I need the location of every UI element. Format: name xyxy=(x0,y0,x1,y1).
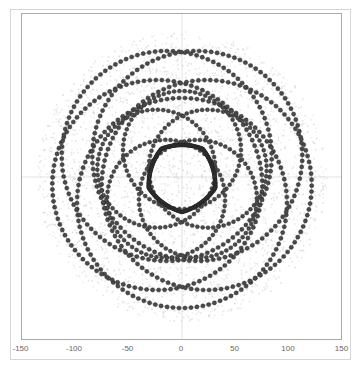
x-tick-label: 50 xyxy=(230,344,239,353)
x-tick-label: -100 xyxy=(66,344,82,353)
scatter-plot xyxy=(22,14,342,340)
halo-points xyxy=(37,31,328,322)
x-tick-label: 150 xyxy=(335,344,348,353)
x-tick-label: 100 xyxy=(281,344,294,353)
x-tick-label: -50 xyxy=(122,344,134,353)
plot-area xyxy=(21,13,342,340)
x-tick-label: -150 xyxy=(12,344,28,353)
x-tick-label: 0 xyxy=(179,344,183,353)
